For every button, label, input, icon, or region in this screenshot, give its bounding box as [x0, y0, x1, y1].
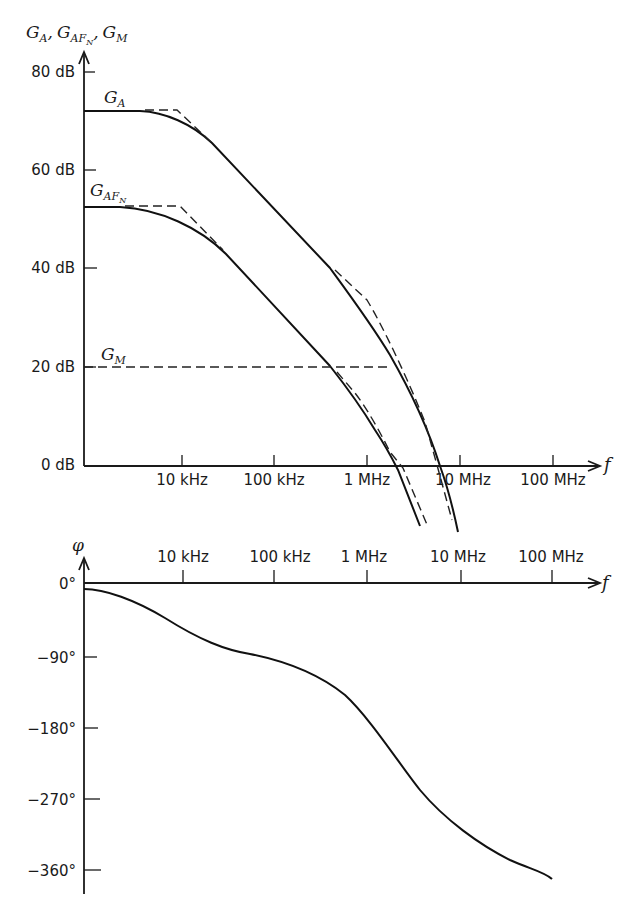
phase-y-tick-0: 0° — [59, 575, 76, 593]
magnitude-x-axis-label: f — [602, 454, 614, 475]
phase-x-tick-1mhz: 1 MHz — [341, 548, 388, 566]
phase-x-tick-100khz: 100 kHz — [249, 548, 310, 566]
ga-curve — [84, 111, 458, 532]
phase-x-tick-10khz: 10 kHz — [157, 548, 209, 566]
magnitude-chart: GA,GAFN,GM f 80 dB 60 dB 40 dB 20 dB 0 d… — [26, 22, 614, 532]
ga-asymptote — [145, 110, 452, 520]
phase-x-tick-10mhz: 10 MHz — [430, 548, 486, 566]
phase-y-tick-minus180: −180° — [27, 720, 76, 738]
x-tick-1mhz: 1 MHz — [344, 471, 391, 489]
x-tick-100mhz: 100 MHz — [520, 471, 586, 489]
phase-y-tick-minus270: −270° — [27, 791, 76, 809]
phase-x-tick-100mhz: 100 MHz — [518, 548, 584, 566]
y-tick-80db: 80 dB — [31, 63, 75, 81]
phase-x-axis-label: f — [600, 572, 612, 593]
gafn-label: GAFN — [90, 180, 127, 205]
x-tick-10khz: 10 kHz — [156, 471, 208, 489]
magnitude-y-axis-label: GA,GAFN,GM — [26, 22, 128, 47]
x-tick-100khz: 100 kHz — [243, 471, 304, 489]
phase-y-tick-minus90: −90° — [37, 649, 76, 667]
gm-label: GM — [101, 344, 127, 367]
phase-chart: φ f 10 kHz 100 kHz 1 MHz 10 MHz 100 MHz … — [27, 535, 612, 894]
phase-curve — [84, 589, 552, 879]
bode-plot: GA,GAFN,GM f 80 dB 60 dB 40 dB 20 dB 0 d… — [0, 0, 629, 912]
ga-label: GA — [104, 87, 126, 110]
y-tick-60db: 60 dB — [31, 161, 75, 179]
y-tick-20db: 20 dB — [31, 358, 75, 376]
phase-y-tick-minus360: −360° — [27, 862, 76, 880]
phase-y-axis-label: φ — [72, 535, 84, 555]
y-tick-40db: 40 dB — [31, 259, 75, 277]
y-tick-0db: 0 dB — [41, 456, 75, 474]
